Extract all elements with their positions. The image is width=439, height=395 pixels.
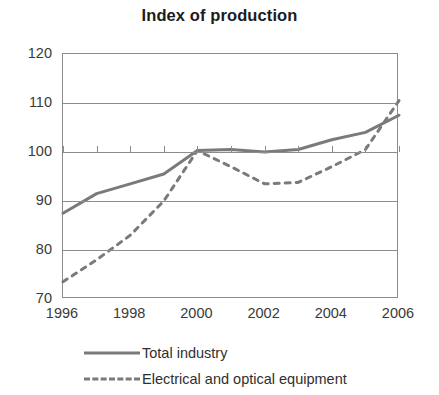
x-tick-2005 bbox=[365, 146, 366, 152]
series-line-electrical-optical bbox=[63, 101, 399, 282]
gridline-y-80 bbox=[63, 250, 397, 251]
gridline-y-90 bbox=[63, 201, 397, 202]
chart-container: Index of production 120110100908070 1996… bbox=[0, 0, 439, 395]
x-tick-label-1996: 1996 bbox=[46, 305, 78, 321]
y-tick-label-80: 80 bbox=[0, 241, 52, 257]
x-tick-2000 bbox=[197, 146, 198, 152]
x-tick-2004 bbox=[332, 146, 333, 152]
gridline-y-100 bbox=[63, 152, 397, 153]
x-tick-label-2006: 2006 bbox=[382, 305, 414, 321]
x-tick-1997 bbox=[97, 146, 98, 152]
legend-swatch-solid-icon bbox=[84, 347, 140, 359]
series-line-total-industry bbox=[63, 115, 399, 213]
y-tick-label-120: 120 bbox=[0, 45, 52, 61]
x-tick-label-2004: 2004 bbox=[315, 305, 347, 321]
x-tick-label-2000: 2000 bbox=[180, 305, 212, 321]
y-tick-label-110: 110 bbox=[0, 94, 52, 110]
legend-label-total-industry: Total industry bbox=[142, 345, 227, 361]
legend-item-total-industry: Total industry bbox=[0, 340, 439, 366]
legend-label-electrical-optical: Electrical and optical equipment bbox=[142, 371, 347, 387]
legend-swatch-dashed-icon bbox=[84, 373, 140, 385]
chart-title: Index of production bbox=[0, 6, 439, 25]
y-tick-label-100: 100 bbox=[0, 143, 52, 159]
x-tick-2003 bbox=[298, 146, 299, 152]
x-tick-1996 bbox=[63, 146, 64, 152]
x-tick-2002 bbox=[265, 146, 266, 152]
y-tick-label-70: 70 bbox=[0, 290, 52, 306]
plot-area bbox=[62, 53, 398, 298]
x-tick-label-1998: 1998 bbox=[113, 305, 145, 321]
x-tick-1998 bbox=[130, 146, 131, 152]
x-tick-1999 bbox=[164, 146, 165, 152]
chart-legend: Total industry Electrical and optical eq… bbox=[0, 340, 439, 392]
legend-item-electrical-optical: Electrical and optical equipment bbox=[0, 366, 439, 392]
series-lines bbox=[63, 54, 399, 299]
y-tick-label-90: 90 bbox=[0, 192, 52, 208]
x-tick-2006 bbox=[399, 146, 400, 152]
x-tick-2001 bbox=[231, 146, 232, 152]
x-tick-label-2002: 2002 bbox=[247, 305, 279, 321]
gridline-y-110 bbox=[63, 103, 397, 104]
